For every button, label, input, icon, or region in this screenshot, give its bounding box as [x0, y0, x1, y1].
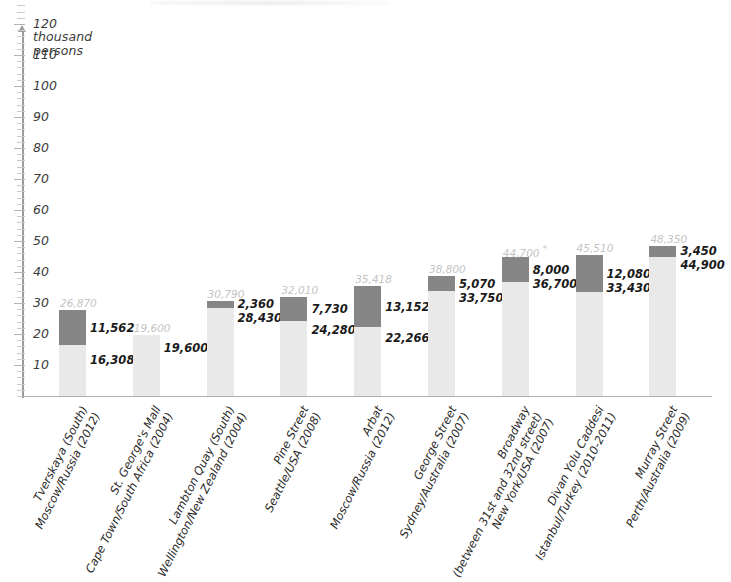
bar-lower-value-label: 22,266 — [385, 331, 429, 345]
y-tick-minor — [17, 284, 25, 285]
y-tick-minor — [17, 253, 25, 254]
bar-segment-lower[interactable] — [207, 308, 234, 396]
y-tick-minor — [17, 315, 25, 316]
bar-lower-value-label: 44,900 — [680, 258, 724, 272]
bar-lower-value-label: 16,308 — [90, 353, 134, 367]
y-tick-minor — [17, 222, 25, 223]
y-tick-minor — [17, 160, 25, 161]
y-tick-label: 30 — [33, 295, 49, 310]
stacked-bar[interactable] — [428, 276, 455, 396]
y-tick-minor — [17, 18, 25, 19]
y-tick-label: 80 — [33, 140, 49, 155]
bar-segment-lower[interactable] — [649, 257, 676, 396]
y-tick-minor — [17, 229, 25, 230]
y-tick-major — [14, 117, 25, 118]
y-tick-label: 10 — [33, 357, 49, 372]
bar-segment-lower[interactable] — [576, 292, 603, 396]
y-tick-minor — [17, 173, 25, 174]
bar-total-label: 32,010 — [281, 284, 318, 296]
top-edge-artifact — [150, 1, 390, 5]
y-tick-label: 110 — [33, 47, 57, 62]
y-tick-label: 90 — [33, 109, 49, 124]
bar-segment-lower[interactable] — [502, 282, 529, 396]
x-axis-label-line: Wellington/New Zealand (2004) — [155, 410, 250, 579]
bar-segment-upper[interactable] — [649, 246, 676, 257]
y-tick-label: 40 — [33, 264, 49, 279]
bar-segment-upper[interactable] — [576, 255, 603, 292]
bar-segment-upper[interactable] — [428, 276, 455, 292]
bar-segment-lower[interactable] — [354, 327, 381, 396]
bar-segment-lower[interactable] — [59, 345, 86, 396]
y-tick-minor — [17, 98, 25, 99]
stacked-bar[interactable] — [59, 310, 86, 396]
y-tick-minor — [17, 216, 25, 217]
y-tick-minor — [17, 142, 25, 143]
bar-lower-value-label: 33,750 — [459, 291, 503, 305]
y-tick-minor — [17, 61, 25, 62]
y-tick-major — [14, 303, 25, 304]
y-tick-minor — [17, 80, 25, 81]
stacked-bar[interactable] — [354, 286, 381, 396]
x-axis-label: Tverskaya (South)Moscow/Russia (2012) — [20, 404, 103, 531]
y-tick-minor — [17, 123, 25, 124]
y-tick-major — [14, 365, 25, 366]
stacked-bar[interactable] — [502, 257, 529, 396]
bar-segment-lower[interactable] — [133, 335, 160, 396]
bar-segment-lower[interactable] — [280, 321, 307, 396]
y-tick-minor — [17, 390, 25, 391]
y-tick-minor — [17, 154, 25, 155]
footnote-asterisk: * — [540, 244, 547, 254]
y-tick-minor — [17, 185, 25, 186]
y-tick-minor — [17, 43, 25, 44]
y-tick-major — [14, 148, 25, 149]
y-tick-major — [14, 55, 25, 56]
y-tick-major — [14, 24, 25, 25]
x-axis-label: Murray StreetPerth/Australia (2009) — [611, 404, 693, 530]
bar-lower-value-label: 33,430 — [607, 281, 651, 295]
stacked-bar[interactable] — [133, 335, 160, 396]
bar-lower-value-label: 28,430 — [238, 311, 282, 325]
y-tick-minor — [17, 167, 25, 168]
y-tick-minor — [17, 12, 25, 13]
y-tick-minor — [17, 191, 25, 192]
bar-segment-upper[interactable] — [354, 286, 381, 327]
bar-segment-upper[interactable] — [502, 257, 529, 282]
y-tick-major — [14, 210, 25, 211]
y-tick-major — [14, 86, 25, 87]
stacked-bar[interactable] — [576, 255, 603, 396]
y-tick-minor — [17, 49, 25, 50]
y-tick-minor — [17, 247, 25, 248]
y-tick-minor — [17, 291, 25, 292]
y-tick-minor — [17, 371, 25, 372]
y-tick-minor — [17, 235, 25, 236]
bar-total-label: 38,800 — [429, 263, 466, 275]
y-tick-label: 50 — [33, 233, 49, 248]
y-tick-minor — [17, 266, 25, 267]
stacked-bar[interactable] — [207, 301, 234, 396]
bar-upper-value-label: 11,562 — [90, 321, 134, 335]
bar-total-label: 48,350 — [650, 233, 687, 245]
bar-segment-upper[interactable] — [280, 297, 307, 321]
y-tick-minor — [17, 377, 25, 378]
x-axis-label: George StreetSydney/Australia (2007) — [384, 404, 471, 540]
y-tick-minor — [17, 136, 25, 137]
y-tick-minor — [17, 92, 25, 93]
stacked-bar[interactable] — [280, 297, 307, 396]
y-tick-minor — [17, 328, 25, 329]
y-tick-minor — [17, 260, 25, 261]
bar-segment-upper[interactable] — [207, 301, 234, 308]
y-tick-major — [14, 241, 25, 242]
bar-segment-upper[interactable] — [59, 310, 86, 346]
y-tick-minor — [17, 67, 25, 68]
bar-upper-value-label: 12,080 — [607, 267, 651, 281]
bar-lower-value-label: 24,280 — [311, 323, 355, 337]
stacked-bar[interactable] — [649, 246, 676, 396]
bar-total-label: 26,870 — [60, 297, 97, 309]
y-tick-minor — [17, 322, 25, 323]
x-axis-label: Pine StreetSeattle/USA (2008) — [250, 404, 324, 514]
bar-lower-value-label: 19,600 — [164, 341, 208, 355]
bar-total-label: 45,510 — [577, 242, 614, 254]
bar-segment-lower[interactable] — [428, 291, 455, 396]
y-tick-label: 120 — [33, 16, 57, 31]
